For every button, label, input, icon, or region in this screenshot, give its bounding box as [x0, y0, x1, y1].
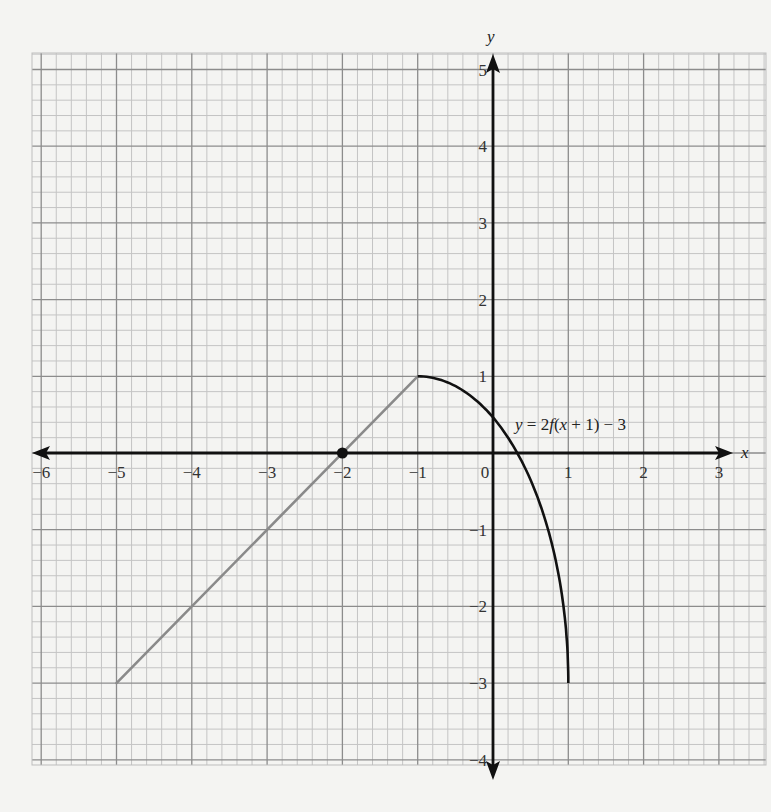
closed-dot: [337, 448, 348, 459]
x-tick-label: 3: [715, 463, 724, 482]
x-tick-label: −5: [107, 463, 125, 482]
y-tick-label: 2: [479, 291, 488, 310]
y-axis-label: y: [485, 27, 495, 46]
x-tick-label: −1: [409, 463, 427, 482]
x-tick-label: −4: [183, 463, 202, 482]
x-tick-label: −2: [333, 463, 351, 482]
y-tick-label: −2: [469, 597, 487, 616]
y-tick-label: 1: [479, 367, 488, 386]
x-tick-label: −6: [32, 463, 50, 482]
y-tick-label: 5: [479, 61, 488, 80]
y-tick-label: 4: [479, 137, 488, 156]
x-tick-label: 0: [481, 463, 490, 482]
equation-label: y = 2f(x + 1) − 3: [513, 415, 626, 434]
x-tick-label: 2: [639, 463, 648, 482]
y-tick-label: −1: [469, 521, 487, 540]
axes: [32, 54, 733, 780]
y-tick-label: −3: [469, 674, 487, 693]
graph: −6−5−4−3−2−10123−4−3−2−112345 x y y = 2f…: [0, 0, 771, 812]
x-tick-label: 1: [564, 463, 573, 482]
y-tick-label: −4: [469, 751, 488, 770]
x-axis-label: x: [740, 443, 749, 462]
x-tick-label: −3: [258, 463, 276, 482]
y-tick-label: 3: [479, 214, 488, 233]
